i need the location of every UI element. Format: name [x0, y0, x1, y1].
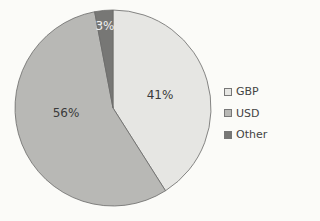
- pie-label-other: 3%: [95, 19, 114, 33]
- legend-item-usd: USD: [224, 103, 267, 125]
- legend-label-other: Other: [236, 128, 267, 141]
- legend-label-gbp: GBP: [236, 85, 259, 98]
- legend-item-gbp: GBP: [224, 81, 267, 103]
- legend-swatch-gbp: [224, 88, 232, 96]
- legend-item-other: Other: [224, 124, 267, 146]
- legend-swatch-usd: [224, 109, 232, 117]
- legend-label-usd: USD: [236, 107, 260, 120]
- legend-swatch-other: [224, 131, 232, 139]
- pie-label-usd: 56%: [53, 106, 80, 120]
- legend: GBP USD Other: [224, 81, 267, 146]
- pie-label-gbp: 41%: [147, 88, 174, 102]
